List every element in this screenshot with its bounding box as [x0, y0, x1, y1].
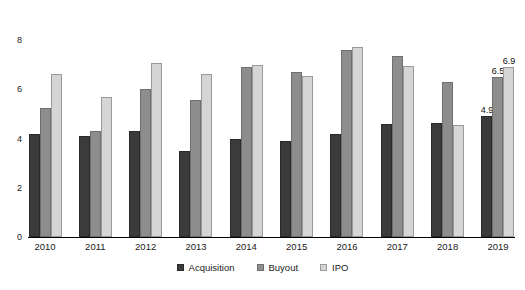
bar-group-2017	[380, 40, 414, 237]
bar-value-label: 6.9	[503, 56, 516, 66]
bar-ipo-2018	[453, 125, 464, 237]
bar-buyout-2019: 6.5	[492, 77, 503, 237]
x-axis-tick-label-2013: 2013	[179, 241, 213, 252]
bar-value-label: 6.5	[492, 66, 505, 76]
bar-acquisition-2017	[381, 124, 392, 237]
x-axis-tick-label-2019: 2019	[481, 241, 515, 252]
legend-label: IPO	[332, 262, 348, 273]
bar-group-2014	[229, 40, 263, 237]
bar-buyout-2014	[241, 67, 252, 237]
bar-buyout-2018	[442, 82, 453, 237]
y-axis: 02468	[0, 40, 22, 237]
x-axis-baseline	[28, 237, 515, 238]
bar-ipo-2013	[201, 74, 212, 237]
bar-acquisition-2010	[29, 134, 40, 237]
bar-acquisition-2019: 4.9	[481, 116, 492, 237]
bar-acquisition-2018	[431, 123, 442, 238]
y-axis-tick-label: 2	[17, 183, 22, 193]
bar-group-2015	[280, 40, 314, 237]
bar-group-2018	[431, 40, 465, 237]
x-axis-tick-label-2011: 2011	[78, 241, 112, 252]
bar-acquisition-2016	[330, 134, 341, 237]
bar-acquisition-2014	[230, 139, 241, 238]
legend-swatch-ipo-icon	[320, 264, 327, 271]
bar-ipo-2017	[403, 66, 414, 237]
bar-buyout-2015	[291, 72, 302, 237]
bar-group-2013	[179, 40, 213, 237]
bar-acquisition-2013	[179, 151, 190, 237]
bar-ipo-2010	[51, 74, 62, 237]
legend-label: Acquisition	[189, 262, 235, 273]
legend-swatch-acquisition-icon	[177, 264, 184, 271]
bar-buyout-2012	[140, 89, 151, 237]
x-axis-tick-label-2016: 2016	[330, 241, 364, 252]
bar-acquisition-2011	[79, 136, 90, 237]
x-axis-tick-label-2018: 2018	[431, 241, 465, 252]
x-axis-tick-label-2014: 2014	[229, 241, 263, 252]
legend-label: Buyout	[269, 262, 299, 273]
x-axis-tick-label-2012: 2012	[129, 241, 163, 252]
bar-ipo-2016	[352, 47, 363, 237]
x-axis-tick-label-2015: 2015	[280, 241, 314, 252]
bar-ipo-2015	[302, 76, 313, 237]
y-axis-tick-label: 0	[17, 232, 22, 242]
bar-buyout-2011	[90, 131, 101, 237]
bar-buyout-2013	[190, 100, 201, 237]
bar-buyout-2010	[40, 108, 51, 237]
bar-group-2010	[28, 40, 62, 237]
x-axis-tick-label-2017: 2017	[380, 241, 414, 252]
bar-group-2019: 4.96.56.9	[481, 40, 515, 237]
legend-swatch-buyout-icon	[257, 264, 264, 271]
x-axis-labels: 2010201120122013201420152016201720182019	[28, 241, 515, 252]
bar-value-label: 4.9	[481, 105, 494, 115]
y-axis-tick-label: 6	[17, 84, 22, 94]
x-axis-tick-label-2010: 2010	[28, 241, 62, 252]
bar-acquisition-2015	[280, 141, 291, 237]
chart-legend: AcquisitionBuyoutIPO	[0, 262, 525, 273]
bar-groups: 4.96.56.9	[28, 40, 515, 237]
legend-item-ipo[interactable]: IPO	[320, 262, 348, 273]
bar-group-2016	[330, 40, 364, 237]
bar-ipo-2014	[252, 65, 263, 237]
y-axis-tick-label: 4	[17, 134, 22, 144]
bar-group-2011	[78, 40, 112, 237]
bar-chart: 02468 4.96.56.9 201020112012201320142015…	[0, 0, 525, 290]
y-axis-tick-label: 8	[17, 35, 22, 45]
bar-group-2012	[129, 40, 163, 237]
legend-item-buyout[interactable]: Buyout	[257, 262, 299, 273]
bar-ipo-2019: 6.9	[503, 67, 514, 237]
bar-buyout-2016	[341, 50, 352, 237]
legend-item-acquisition[interactable]: Acquisition	[177, 262, 235, 273]
bar-buyout-2017	[392, 56, 403, 237]
bar-ipo-2012	[151, 63, 162, 237]
bar-ipo-2011	[101, 97, 112, 237]
bar-acquisition-2012	[129, 131, 140, 237]
